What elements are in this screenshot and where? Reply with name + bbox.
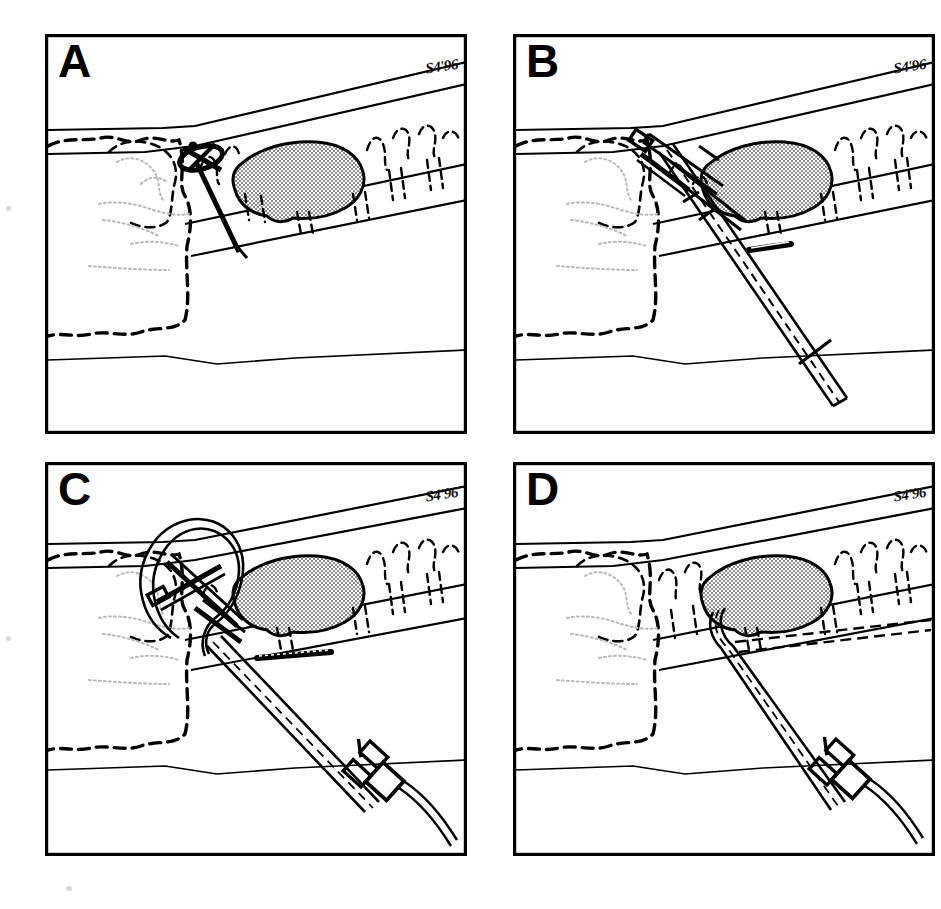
panel-letter-a: A	[58, 38, 91, 84]
panel-letter-d: D	[526, 466, 559, 512]
panel-letter-b: B	[526, 38, 559, 84]
figure-sheet: A S4'96	[0, 0, 941, 909]
panel-d[interactable]: D S4'96	[513, 462, 935, 856]
panel-a[interactable]: A S4'96	[45, 34, 467, 434]
panel-d-artwork	[513, 462, 935, 856]
scan-speck	[66, 886, 72, 891]
panel-c-artwork	[45, 462, 467, 856]
scan-speck	[6, 206, 11, 211]
panel-grid: A S4'96	[45, 34, 935, 856]
panel-a-artwork	[45, 34, 467, 434]
panel-b[interactable]: B S4'96	[513, 34, 935, 434]
panel-c[interactable]: C S4'96	[45, 462, 467, 856]
panel-b-artwork	[513, 34, 935, 434]
scan-speck	[6, 636, 11, 641]
panel-letter-c: C	[58, 466, 91, 512]
